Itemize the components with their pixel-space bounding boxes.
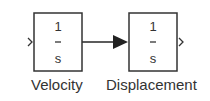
integrator-block-velocity[interactable]: 1 s <box>34 13 82 71</box>
numerator: 1 <box>54 19 61 34</box>
denominator: s <box>55 51 62 66</box>
arrowhead-icon <box>113 35 128 49</box>
input-port-icon[interactable] <box>28 38 32 46</box>
output-port-icon[interactable] <box>179 38 183 46</box>
numerator: 1 <box>149 19 156 34</box>
block-label-displacement: Displacement <box>106 76 197 93</box>
block-label-velocity: Velocity <box>31 76 83 93</box>
denominator: s <box>150 51 157 66</box>
integrator-block-displacement[interactable]: 1 s <box>129 13 177 71</box>
